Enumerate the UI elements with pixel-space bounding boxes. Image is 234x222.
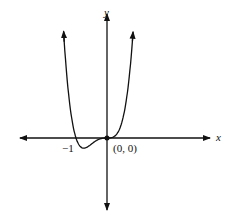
graph: x y −1 (0, 0) (0, 0, 234, 222)
origin-point (105, 136, 110, 141)
curve (64, 32, 133, 148)
y-axis-label: y (104, 6, 109, 18)
plot-area (0, 0, 234, 222)
origin-label: (0, 0) (113, 142, 137, 154)
neg-one-label: −1 (62, 142, 74, 154)
x-axis-label: x (216, 131, 221, 143)
